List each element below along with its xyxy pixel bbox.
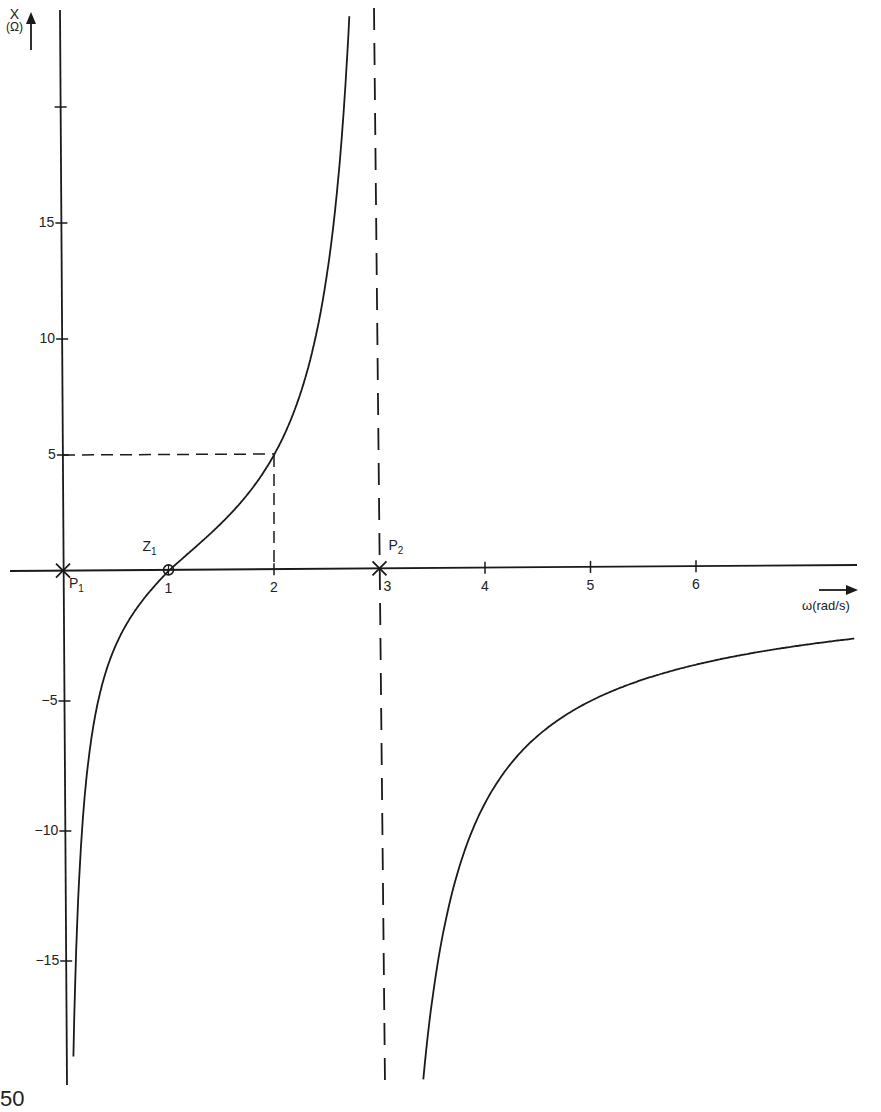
y-tick-label: 5 <box>6 446 56 462</box>
x-tick-label: 1 <box>165 580 173 596</box>
x-tick-label: 3 <box>384 578 392 594</box>
x-tick-label: 5 <box>587 577 595 593</box>
y-axis-label: X (Ω) <box>6 8 23 34</box>
y-tick-label: −5 <box>7 692 57 708</box>
asymptote-dashed <box>374 8 385 1083</box>
arrow-up-icon <box>26 12 36 24</box>
y-tick-label: 10 <box>5 330 55 346</box>
page-number: 50 <box>0 1086 24 1112</box>
curve-branch-right <box>423 639 854 1080</box>
x-axis-line <box>10 565 857 571</box>
axes <box>10 10 858 1085</box>
pole-label: P2 <box>389 537 404 556</box>
y-tick-label: 15 <box>4 214 54 230</box>
reactance-plot <box>0 0 881 1112</box>
pole-label: P1 <box>69 575 84 594</box>
x-tick-label: 2 <box>270 579 278 595</box>
x-axis-label: ω(rad/s) <box>802 598 850 613</box>
arrow-right-icon <box>846 585 858 595</box>
x-tick-label: 4 <box>481 578 489 594</box>
x-tick-label: 6 <box>692 576 700 592</box>
zero-label: Z1 <box>143 538 157 557</box>
dashed-guides <box>63 8 385 1083</box>
guide-horizontal <box>63 454 274 455</box>
curve-branch-left <box>73 16 349 1056</box>
y-tick-label: −15 <box>9 952 59 968</box>
y-axis-unit: (Ω) <box>6 21 23 34</box>
reactance-curves <box>73 16 854 1079</box>
y-tick-label: −10 <box>8 822 58 838</box>
y-axis-line <box>60 10 67 1085</box>
